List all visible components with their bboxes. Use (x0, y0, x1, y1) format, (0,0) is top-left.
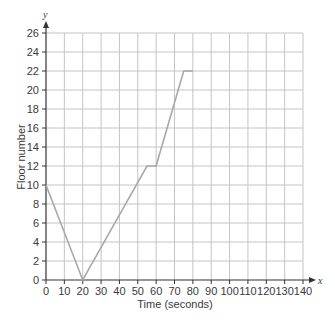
y-tick-label: 16 (27, 122, 39, 134)
y-tick-label: 24 (27, 46, 39, 58)
x-axis-title: Time (seconds) (137, 298, 212, 310)
y-tick-label: 22 (27, 65, 39, 77)
y-axis-arrow-icon (43, 21, 49, 28)
x-tick-label: 100 (220, 285, 238, 297)
x-tick-label: 130 (275, 285, 293, 297)
y-tick-label: 8 (33, 198, 39, 210)
x-tick-label: 50 (132, 285, 144, 297)
x-axis-arrow-icon (309, 277, 316, 283)
y-tick-label: 12 (27, 160, 39, 172)
x-tick-label: 120 (257, 285, 275, 297)
y-tick-label: 20 (27, 84, 39, 96)
x-tick-label: 10 (58, 285, 70, 297)
y-tick-label: 0 (33, 274, 39, 286)
gridlines (46, 33, 303, 280)
x-tick-label: 40 (113, 285, 125, 297)
x-tick-label: 140 (294, 285, 312, 297)
axes (43, 21, 316, 283)
y-tick-label: 10 (27, 179, 39, 191)
y-tick-label: 2 (33, 255, 39, 267)
y-tick-label: 14 (27, 141, 39, 153)
x-tick-label: 70 (168, 285, 180, 297)
y-tick-label: 26 (27, 27, 39, 39)
x-tick-label: 90 (205, 285, 217, 297)
x-axis-variable-label: x (317, 275, 323, 286)
y-tick-label: 4 (33, 236, 39, 248)
x-tick-label: 80 (187, 285, 199, 297)
y-tick-label: 6 (33, 217, 39, 229)
x-tick-label: 60 (150, 285, 162, 297)
y-axis-title: Floor number (15, 124, 27, 190)
chart-canvas: 0102030405060708090100110120130140024681… (0, 0, 335, 327)
x-tick-label: 0 (43, 285, 49, 297)
x-tick-label: 110 (239, 285, 257, 297)
axis-ticks: 0102030405060708090100110120130140024681… (27, 27, 312, 297)
line-chart: 0102030405060708090100110120130140024681… (0, 0, 335, 327)
x-tick-label: 20 (77, 285, 89, 297)
y-axis-variable-label: y (42, 9, 48, 20)
x-tick-label: 30 (95, 285, 107, 297)
y-tick-label: 18 (27, 103, 39, 115)
